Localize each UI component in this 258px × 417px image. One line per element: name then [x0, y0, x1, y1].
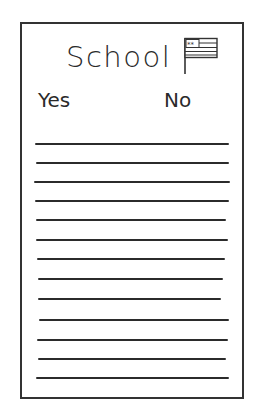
- no-column-label: No: [164, 88, 191, 112]
- svg-text:**: **: [187, 41, 195, 49]
- writing-line: [38, 298, 221, 300]
- writing-line: [36, 162, 229, 164]
- writing-line: [35, 200, 229, 202]
- writing-line: [34, 181, 230, 183]
- writing-line: [38, 358, 226, 360]
- yes-column-label: Yes: [38, 88, 70, 112]
- writing-line: [39, 319, 229, 321]
- writing-line: [38, 278, 223, 280]
- writing-line: [36, 377, 229, 379]
- flag-icon: **: [183, 37, 219, 75]
- writing-line: [35, 143, 229, 145]
- card-border: [20, 22, 244, 399]
- writing-line: [37, 258, 225, 260]
- card-title: School: [66, 40, 171, 74]
- writing-line: [36, 239, 228, 241]
- writing-line: [37, 339, 228, 341]
- writing-line: [36, 219, 226, 221]
